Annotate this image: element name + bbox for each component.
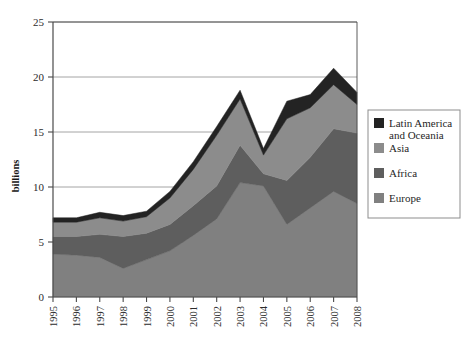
legend-label: Europe xyxy=(389,192,421,204)
legend-label: Asia xyxy=(389,142,409,154)
x-tick-label: 2001 xyxy=(188,306,199,327)
y-tick-label: 10 xyxy=(33,181,45,193)
x-tick-label: 2003 xyxy=(235,306,246,327)
legend-label: Africa xyxy=(389,167,417,179)
y-tick-label: 25 xyxy=(33,16,45,28)
legend-swatch xyxy=(374,143,384,153)
x-tick-label: 2000 xyxy=(165,306,176,327)
legend-swatch xyxy=(374,118,384,128)
x-tick-label: 2006 xyxy=(305,306,316,327)
x-tick-label: 2005 xyxy=(282,306,293,327)
chart-legend: Latin Americaand OceaniaAsiaAfricaEurope xyxy=(368,110,460,218)
y-tick-label: 15 xyxy=(33,126,45,138)
x-tick-label: 1998 xyxy=(118,306,129,327)
stacked-area-chart: 0510152025 19951996199719981999200020012… xyxy=(0,0,468,344)
y-tick-label: 0 xyxy=(39,291,45,303)
x-tick-label: 2002 xyxy=(212,306,223,327)
x-tick-label: 2004 xyxy=(258,305,269,327)
x-tick-label: 1996 xyxy=(71,306,82,327)
x-tick-label: 1995 xyxy=(48,306,59,327)
chart-canvas: 0510152025 19951996199719981999200020012… xyxy=(0,0,468,344)
y-tick-label: 20 xyxy=(33,71,45,83)
x-tick-label: 2008 xyxy=(352,306,363,327)
x-tick-label: 2007 xyxy=(329,306,340,327)
x-tick-label: 1999 xyxy=(142,306,153,327)
legend-swatch xyxy=(374,193,384,203)
y-tick-label: 5 xyxy=(39,236,45,248)
legend-label: Latin America xyxy=(389,117,452,129)
legend-label-line2: and Oceania xyxy=(389,129,444,141)
legend-swatch xyxy=(374,168,384,178)
y-axis-title: billions xyxy=(10,160,21,193)
x-tick-label: 1997 xyxy=(95,306,106,327)
